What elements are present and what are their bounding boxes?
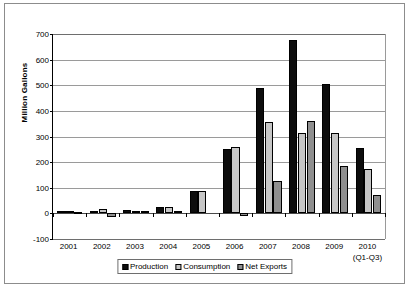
legend-item-net-exports[interactable]: Net Exports [237,262,287,271]
y-tick-label: 700 [36,30,49,39]
bar-consumption-2004 [165,207,173,213]
bar-netexports-2004 [174,211,182,213]
y-tick-label: -100 [33,235,49,244]
bar-group-2010 [356,34,382,239]
bar-netexports-2006 [240,213,248,216]
y-tick-label: 0 [45,209,49,218]
x-tick-mark [319,213,320,217]
x-tick-mark [186,213,187,217]
bar-production-2009 [322,84,330,213]
bar-netexports-2010 [373,195,381,213]
bar-consumption-2007 [265,122,273,213]
x-tick-label-2001: 2001 [60,242,78,251]
bar-netexports-2002 [107,213,115,217]
bar-group-2006 [223,34,249,239]
x-tick-mark-origin [53,213,54,217]
bar-group-2009 [322,34,348,239]
bar-netexports-2008 [307,121,315,213]
bar-production-2006 [223,149,231,213]
x-tick-label-2006: 2006 [226,242,244,251]
bar-group-2008 [289,34,315,239]
bar-production-2010 [356,148,364,213]
y-tick-label: 300 [36,132,49,141]
bar-production-2004 [156,207,164,214]
bar-consumption-2001 [65,211,73,213]
y-tick-label: 500 [36,81,49,90]
x-tick-mark [153,213,154,217]
x-tick-label-2003: 2003 [126,242,144,251]
x-tick-mark [385,213,386,217]
legend-swatch-icon [175,264,181,270]
y-axis-title: Million Gallons [20,43,29,143]
x-tick-label-2009: 2009 [325,242,343,251]
plot-area: 7006005004003002001000-100 [52,34,386,239]
x-tick-mark [119,213,120,217]
bar-consumption-2005 [198,191,206,214]
bar-netexports-2009 [340,166,348,213]
bar-consumption-2003 [132,211,140,214]
bar-group-2007 [256,34,282,239]
y-tick-mark [50,239,53,240]
y-tick-label: 400 [36,106,49,115]
bar-production-2007 [256,88,264,213]
x-tick-label-2005: 2005 [192,242,210,251]
legend-item-production[interactable]: Production [122,262,168,271]
bar-consumption-2002 [99,209,107,213]
bar-group-2001 [57,34,83,239]
chart-frame: Million Gallons 7006005004003002001000-1… [4,3,405,284]
legend-swatch-icon [237,264,243,270]
x-tick-mark [285,213,286,217]
x-tick-label-2010: 2010 [358,242,376,251]
x-tick-mark [252,213,253,217]
bar-group-2005 [190,34,216,239]
y-tick-label: 100 [36,183,49,192]
x-tick-label-2004: 2004 [159,242,177,251]
bar-group-2003 [123,34,149,239]
gridline--100 [53,239,385,240]
x-tick-sublabel-2010: (Q1-Q3) [353,253,382,262]
bar-group-2004 [156,34,182,239]
bar-production-2001 [57,211,65,214]
chart-legend: ProductionConsumptionNet Exports [117,259,292,274]
y-tick-label: 600 [36,55,49,64]
bar-netexports-2001 [74,212,82,214]
legend-swatch-icon [122,264,128,270]
bar-consumption-2006 [231,147,239,213]
bar-production-2002 [90,211,98,214]
x-tick-label-2008: 2008 [292,242,310,251]
bar-production-2005 [190,191,198,214]
bar-netexports-2003 [141,211,149,213]
bar-production-2003 [123,210,131,213]
x-tick-mark [352,213,353,217]
x-tick-mark [219,213,220,217]
x-tick-mark [86,213,87,217]
legend-label: Net Exports [245,262,287,271]
y-tick-label: 200 [36,158,49,167]
x-tick-label-2007: 2007 [259,242,277,251]
bar-production-2008 [289,40,297,214]
bar-netexports-2007 [273,181,281,214]
bar-consumption-2010 [364,169,372,213]
legend-label: Consumption [183,262,230,271]
legend-item-consumption[interactable]: Consumption [175,262,230,271]
bars-layer [53,34,385,239]
x-tick-label-2002: 2002 [93,242,111,251]
bar-group-2002 [90,34,116,239]
bar-consumption-2008 [298,133,306,213]
legend-label: Production [130,262,168,271]
bar-consumption-2009 [331,133,339,213]
